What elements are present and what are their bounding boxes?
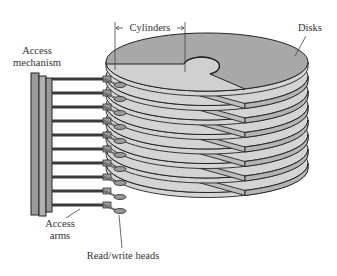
access-mechanism (31, 73, 52, 216)
disks-label: Disks (293, 22, 327, 34)
read-write-head (114, 83, 126, 88)
read-write-head (114, 153, 126, 158)
access-arms-label-line1: Access (40, 218, 80, 230)
read-write-heads-label: Read/write heads (78, 250, 168, 262)
read-write-head (114, 139, 126, 144)
access-mechanism-label: Access mechanism (6, 45, 68, 69)
access-arm (52, 202, 126, 214)
access-arms-label: Access arms (40, 218, 80, 242)
disk (106, 33, 308, 96)
read-write-head (114, 111, 126, 116)
cylinders-label: Cylinders (124, 22, 176, 34)
read-write-head (114, 167, 126, 172)
read-write-head (114, 181, 126, 186)
read-write-head (114, 97, 126, 102)
disk-stack (106, 33, 308, 198)
read-write-head (114, 195, 126, 200)
read-write-head (114, 125, 126, 130)
access-mechanism-label-line1: Access (6, 45, 68, 57)
access-arm (52, 188, 126, 200)
read-write-head (114, 209, 126, 214)
access-mechanism-label-line2: mechanism (6, 57, 68, 69)
access-arms-label-line2: arms (40, 230, 80, 242)
